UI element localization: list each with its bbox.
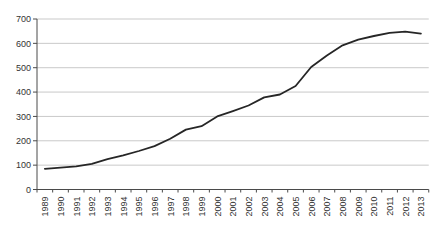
- x-tick-label: 2000: [213, 197, 223, 217]
- x-tick-label: 2009: [354, 197, 364, 217]
- x-tick-label: 1997: [166, 197, 176, 217]
- line-chart-figure: 0100200300400500600700198919901991199219…: [0, 0, 437, 235]
- x-tick-label: 1991: [72, 197, 82, 217]
- x-tick-label: 2002: [244, 197, 254, 217]
- x-tick-label: 1989: [40, 197, 50, 217]
- x-tick-label: 2011: [385, 197, 395, 216]
- y-tick-label: 700: [16, 14, 31, 24]
- y-tick-label: 200: [16, 136, 31, 146]
- x-tick-label: 2005: [291, 197, 301, 217]
- x-tick-label: 2001: [228, 197, 238, 217]
- x-tick-label: 2013: [416, 197, 426, 217]
- x-tick-label: 2006: [307, 197, 317, 217]
- y-tick-label: 600: [16, 39, 31, 49]
- x-tick-label: 1992: [87, 197, 97, 217]
- x-tick-label: 2010: [369, 197, 379, 217]
- x-tick-label: 2007: [322, 197, 332, 217]
- x-tick-label: 2004: [275, 197, 285, 217]
- x-tick-label: 1999: [197, 197, 207, 217]
- x-tick-label: 1995: [134, 197, 144, 217]
- y-tick-label: 300: [16, 112, 31, 122]
- y-tick-label: 500: [16, 63, 31, 73]
- x-tick-label: 2012: [401, 197, 411, 217]
- y-tick-label: 0: [26, 185, 31, 195]
- x-tick-label: 1994: [119, 197, 129, 217]
- x-tick-label: 2008: [338, 197, 348, 217]
- data-series-line: [45, 32, 421, 169]
- x-tick-label: 1998: [181, 197, 191, 217]
- x-tick-label: 2003: [260, 197, 270, 217]
- chart-canvas: 0100200300400500600700198919901991199219…: [0, 0, 437, 235]
- x-tick-label: 1990: [56, 197, 66, 217]
- x-tick-label: 1993: [103, 197, 113, 217]
- y-tick-label: 400: [16, 87, 31, 97]
- y-tick-label: 100: [16, 160, 31, 170]
- x-tick-label: 1996: [150, 197, 160, 217]
